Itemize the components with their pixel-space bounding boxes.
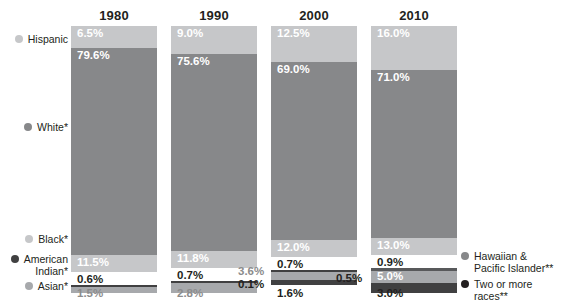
stacked-bar-1980: 6.5% 79.6% 11.5% 0.6%	[71, 26, 157, 293]
segment-white-2010: 71.0%	[371, 70, 457, 238]
legend-dot-american-indian-icon	[11, 255, 19, 263]
legend-label-two-or-more: Two or more races**	[474, 278, 562, 302]
segment-white-1990: 75.6%	[171, 54, 257, 251]
legend-dot-two-or-more-icon	[461, 280, 469, 288]
segment-label-black-1990: 11.8%	[177, 252, 209, 265]
segment-label-black-2000: 12.0%	[277, 241, 310, 254]
legend-label-american-indian: American Indian*	[24, 253, 68, 277]
column-title-1990: 1990	[171, 8, 257, 23]
legend-dot-white-icon	[24, 123, 32, 131]
legend-item-hispanic[interactable]: Hispanic	[0, 33, 68, 45]
segment-american-indian-2000: 0.7%	[271, 257, 357, 270]
bottom-label-two-or-more-2010: 3.0%	[377, 287, 403, 300]
segment-label-hispanic-1980: 6.5%	[77, 27, 103, 40]
side-label-hawaiian-2010: 0.5%	[336, 272, 362, 285]
segment-label-hispanic-1990: 9.0%	[177, 27, 203, 40]
legend-label-asian: Asian*	[38, 280, 68, 292]
segment-black-2000: 12.0%	[271, 240, 357, 257]
bottom-label-asian-1990: 2.8%	[177, 287, 203, 300]
legend-dot-hawaiian-icon	[461, 252, 469, 260]
segment-label-white-2010: 71.0%	[377, 71, 410, 84]
legend-item-black[interactable]: Black*	[0, 233, 68, 245]
legend-dot-black-icon	[25, 235, 33, 243]
segment-label-white-1990: 75.6%	[177, 55, 210, 68]
legend-item-hawaiian-pacific-islander[interactable]: Hawaiian & Pacific Islander**	[461, 250, 562, 274]
legend-label-black: Black*	[38, 233, 68, 245]
segment-label-hispanic-2000: 12.5%	[277, 27, 310, 40]
segment-label-asian-2010: 5.0%	[377, 270, 403, 283]
segment-label-black-1980: 11.5%	[77, 256, 109, 269]
segment-white-2000: 69.0%	[271, 62, 357, 240]
column-title-2000: 2000	[271, 8, 357, 23]
column-title-2010: 2010	[371, 8, 457, 23]
bottom-label-two-or-more-2000: 1.6%	[277, 287, 303, 300]
segment-label-hispanic-2010: 16.0%	[377, 27, 410, 40]
legend-dot-asian-icon	[25, 282, 33, 290]
segment-hispanic-2000: 12.5%	[271, 26, 357, 62]
legend-item-american-indian[interactable]: American Indian*	[0, 253, 68, 277]
segment-hispanic-1980: 6.5%	[71, 26, 157, 48]
legend-label-hispanic: Hispanic	[28, 33, 68, 45]
legend-item-asian[interactable]: Asian*	[0, 280, 68, 292]
stacked-bar-1990: 9.0% 75.6% 11.8% 0.7%	[171, 26, 257, 293]
segment-label-white-2000: 69.0%	[277, 63, 310, 76]
side-label-asian-2000: 3.6%	[238, 265, 264, 278]
segment-black-1980: 11.5%	[71, 255, 157, 272]
segment-hispanic-1990: 9.0%	[171, 26, 257, 54]
legend-item-white[interactable]: White*	[0, 121, 68, 133]
stacked-bar-2010: 16.0% 71.0% 13.0% 0.9% 5.0%	[371, 26, 457, 293]
bottom-label-asian-1980: 1.5%	[77, 287, 103, 300]
legend-label-hawaiian: Hawaiian & Pacific Islander**	[474, 250, 553, 274]
legend-label-white: White*	[37, 121, 68, 133]
segment-american-indian-2010: 0.9%	[371, 255, 457, 268]
column-title-1980: 1980	[71, 8, 157, 23]
stacked-bar-2000: 12.5% 69.0% 12.0% 0.7%	[271, 26, 357, 293]
segment-hispanic-2010: 16.0%	[371, 26, 457, 70]
side-label-hawaiian-2000: 0.1%	[238, 278, 264, 291]
segment-label-black-2010: 13.0%	[377, 239, 410, 252]
segment-american-indian-1980: 0.6%	[71, 272, 157, 285]
chart-canvas: 1980 1990 2000 2010 6.5% 79.6% 11.5% 0.6…	[0, 0, 562, 306]
legend-dot-hispanic-icon	[15, 35, 23, 43]
segment-white-1980: 79.6%	[71, 48, 157, 255]
segment-label-white-1980: 79.6%	[77, 49, 110, 62]
legend-item-two-or-more-races[interactable]: Two or more races**	[461, 278, 562, 302]
segment-asian-2010: 5.0%	[371, 271, 457, 283]
segment-black-2010: 13.0%	[371, 238, 457, 255]
